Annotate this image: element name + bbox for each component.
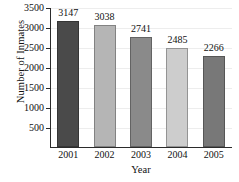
x-tick-label: 2005 [204,150,224,160]
x-tick-label: 2004 [167,150,187,160]
y-tick-label: 500 [29,123,44,133]
bar-rect[interactable] [94,25,116,147]
bar-rect[interactable] [203,56,225,147]
x-tick-label: 2001 [58,150,78,160]
bar-rect[interactable] [166,48,188,147]
x-axis-ticks: 20012002200320042005 [50,150,232,164]
bar-value-label: 2266 [204,43,224,53]
y-tick-label: 1500 [24,83,44,93]
bar[interactable]: 2741 [130,37,152,147]
y-tick-label: 3500 [24,3,44,13]
x-tick-label: 2003 [131,150,151,160]
y-tick-label: 1000 [24,103,44,113]
bar-rect[interactable] [130,37,152,147]
bar[interactable]: 3038 [94,25,116,147]
bar-chart: Number of Inmates 5001000150020002500300… [0,0,239,182]
bar-value-label: 2741 [131,24,151,34]
bar-rect[interactable] [57,21,79,147]
x-axis-title: Year [50,165,232,176]
bar[interactable]: 2485 [166,48,188,147]
plot-area: 500100015002000250030003500 314730382741… [50,8,232,148]
bar[interactable]: 2266 [203,56,225,147]
x-tick-label: 2002 [95,150,115,160]
y-tick-label: 3000 [24,23,44,33]
bar[interactable]: 3147 [57,21,79,147]
bar-value-label: 3147 [58,8,78,18]
y-tick-label: 2000 [24,63,44,73]
bar-value-label: 3038 [95,12,115,22]
y-tick-label: 2500 [24,43,44,53]
bars-layer: 31473038274124852266 [50,8,232,148]
bar-value-label: 2485 [167,35,187,45]
